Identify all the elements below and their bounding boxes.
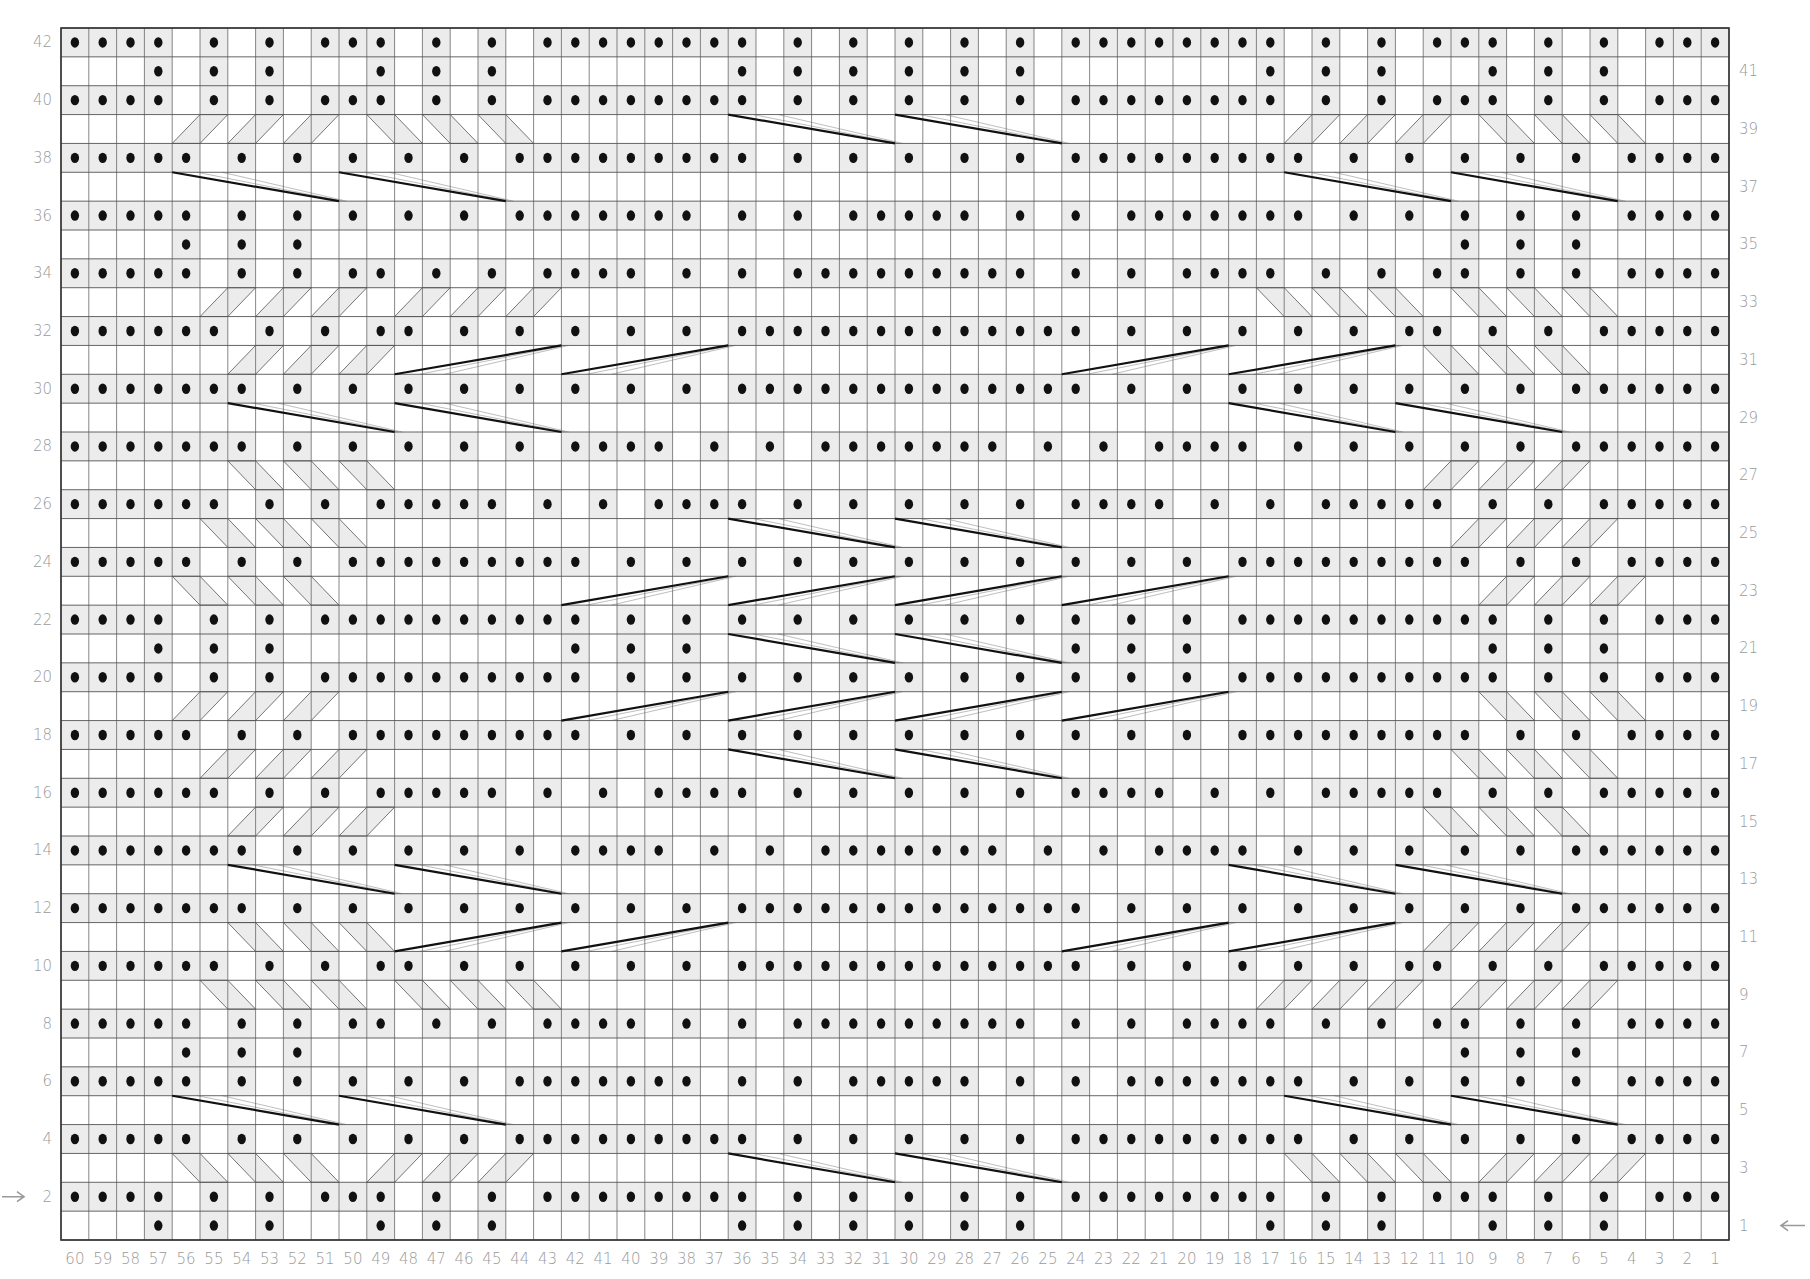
purl-dot (1072, 268, 1080, 278)
purl-dot (710, 37, 718, 47)
purl-dot (1266, 788, 1274, 798)
cable-fan-line (420, 923, 566, 952)
purl-dot (1683, 95, 1691, 105)
purl-dot (682, 903, 690, 913)
row-label-even: 2 (42, 1188, 52, 1206)
purl-dot (404, 210, 412, 220)
row-label-odd: 33 (1739, 293, 1758, 311)
purl-dot (571, 845, 579, 855)
purl-dot (182, 903, 190, 913)
purl-dot (738, 37, 746, 47)
purl-dot (71, 557, 79, 567)
purl-dot (99, 1076, 107, 1086)
purl-dot (933, 441, 941, 451)
purl-dot (849, 614, 857, 624)
purl-dot (794, 499, 802, 509)
purl-dot (1322, 614, 1330, 624)
purl-dot (1489, 95, 1497, 105)
purl-dot (1655, 326, 1663, 336)
purl-dot (1461, 95, 1469, 105)
purl-dot (154, 1220, 162, 1230)
column-label: 50 (343, 1250, 362, 1268)
purl-dot (1600, 1192, 1608, 1202)
purl-dot (182, 210, 190, 220)
purl-dot (794, 1192, 802, 1202)
purl-dot (960, 441, 968, 451)
purl-dot (1072, 95, 1080, 105)
purl-dot (377, 557, 385, 567)
purl-dot (1044, 845, 1052, 855)
purl-dot (1516, 730, 1524, 740)
purl-dot (1294, 614, 1302, 624)
column-label: 8 (1516, 1250, 1526, 1268)
purl-dot (1516, 1018, 1524, 1028)
purl-dot (1711, 326, 1719, 336)
purl-dot (571, 441, 579, 451)
purl-dot (821, 268, 829, 278)
purl-dot (766, 384, 774, 394)
purl-dot (933, 1076, 941, 1086)
purl-dot (71, 730, 79, 740)
purl-dot (738, 384, 746, 394)
purl-dot (210, 441, 218, 451)
purl-dot (1016, 1220, 1024, 1230)
cable-fan-line (1279, 403, 1403, 432)
purl-dot (1433, 961, 1441, 971)
purl-dot (1183, 643, 1191, 653)
purl-dot (682, 499, 690, 509)
purl-dot (543, 557, 551, 567)
purl-dot (460, 903, 468, 913)
purl-dot (1572, 845, 1580, 855)
purl-dot (794, 37, 802, 47)
purl-dot (1016, 1018, 1024, 1028)
purl-dot (1544, 66, 1552, 76)
purl-dot (543, 1134, 551, 1144)
purl-dot (126, 903, 134, 913)
purl-dot (404, 730, 412, 740)
purl-dot (821, 326, 829, 336)
purl-dot (599, 37, 607, 47)
cable-fan-line (778, 1153, 902, 1182)
column-label: 53 (260, 1250, 279, 1268)
purl-dot (1127, 37, 1135, 47)
purl-dot (877, 903, 885, 913)
purl-dot (1016, 153, 1024, 163)
purl-dot (154, 1134, 162, 1144)
purl-dot (738, 557, 746, 567)
purl-dot (488, 1018, 496, 1028)
purl-dot (1405, 153, 1413, 163)
purl-dot (1377, 614, 1385, 624)
purl-dot (488, 1192, 496, 1202)
purl-dot (1350, 730, 1358, 740)
purl-dot (543, 788, 551, 798)
purl-dot (571, 326, 579, 336)
purl-dot (126, 672, 134, 682)
purl-dot (1183, 37, 1191, 47)
purl-dot (1322, 95, 1330, 105)
purl-dot (1433, 614, 1441, 624)
purl-dot (1489, 643, 1497, 653)
purl-dot (210, 961, 218, 971)
purl-dot (627, 210, 635, 220)
purl-dot (71, 903, 79, 913)
purl-dot (599, 95, 607, 105)
purl-dot (1461, 441, 1469, 451)
purl-dot (182, 239, 190, 249)
purl-dot (1238, 557, 1246, 567)
purl-dot (1072, 210, 1080, 220)
purl-dot (960, 672, 968, 682)
purl-dot (905, 672, 913, 682)
cable-fan-line (753, 115, 899, 144)
purl-dot (1628, 845, 1636, 855)
column-label: 48 (399, 1250, 418, 1268)
purl-dot (99, 441, 107, 451)
column-label: 57 (149, 1250, 168, 1268)
purl-dot (571, 95, 579, 105)
purl-dot (377, 730, 385, 740)
purl-dot (1294, 672, 1302, 682)
purl-dot (1127, 1134, 1135, 1144)
purl-dot (1211, 441, 1219, 451)
purl-dot (1127, 326, 1135, 336)
purl-dot (516, 557, 524, 567)
purl-dot (738, 961, 746, 971)
